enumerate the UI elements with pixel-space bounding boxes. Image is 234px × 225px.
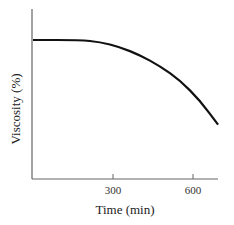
chart-canvas: 300 600 Time (min) Viscosity (%) — [0, 0, 234, 225]
x-tick-label-600: 600 — [185, 184, 202, 196]
y-axis-label: Viscosity (%) — [8, 73, 23, 144]
viscosity-line — [33, 40, 218, 125]
x-tick-label-300: 300 — [105, 184, 122, 196]
x-axis-label: Time (min) — [95, 202, 154, 217]
